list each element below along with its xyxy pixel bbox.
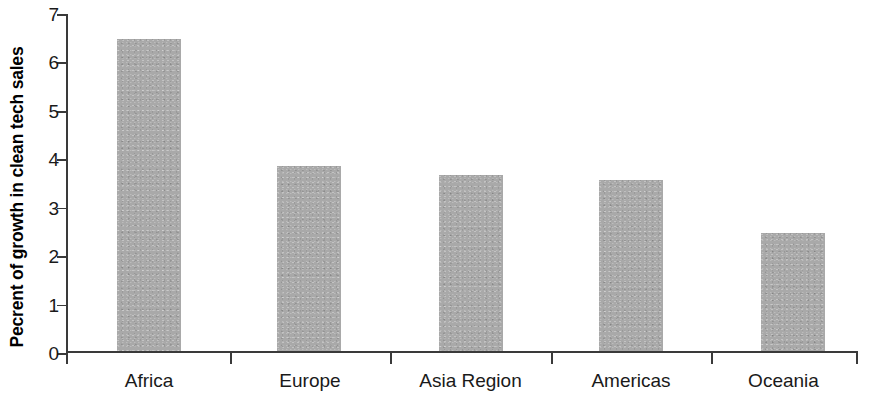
- x-label-europe: Europe: [230, 371, 390, 390]
- x-tick-mark: [230, 353, 232, 364]
- y-tick-label: 0: [48, 344, 59, 363]
- y-tick-label: 5: [48, 101, 59, 120]
- bar-oceania: [761, 233, 825, 351]
- x-tick-mark: [390, 353, 392, 364]
- y-tick-label: 2: [48, 247, 59, 266]
- y-axis-title: Pecrent of growth in clean tech sales: [0, 0, 34, 394]
- bar-asia-region: [439, 175, 503, 351]
- y-tick-label: 7: [48, 5, 59, 24]
- bar-americas: [599, 180, 663, 351]
- x-tick-mark: [711, 353, 713, 364]
- y-tick-label: 3: [48, 198, 59, 217]
- y-tick-label: 6: [48, 53, 59, 72]
- x-axis-line: [66, 351, 858, 353]
- bar-europe: [277, 166, 341, 351]
- x-tick-mark: [551, 353, 553, 364]
- bar-chart: Pecrent of growth in clean tech sales 0 …: [0, 0, 882, 394]
- y-tick-label: 4: [48, 150, 59, 169]
- x-tick-mark: [66, 353, 68, 364]
- x-tick-mark: [856, 353, 858, 364]
- x-label-oceania: Oceania: [711, 371, 856, 390]
- x-label-africa: Africa: [68, 371, 230, 390]
- x-label-americas: Americas: [551, 371, 711, 390]
- x-label-asia-region: Asia Region: [390, 371, 551, 390]
- y-tick-label: 1: [48, 295, 59, 314]
- y-axis-line: [66, 14, 68, 353]
- plot-area: 0 1 2 3 4 5 6 7: [66, 14, 858, 353]
- bar-africa: [117, 39, 181, 351]
